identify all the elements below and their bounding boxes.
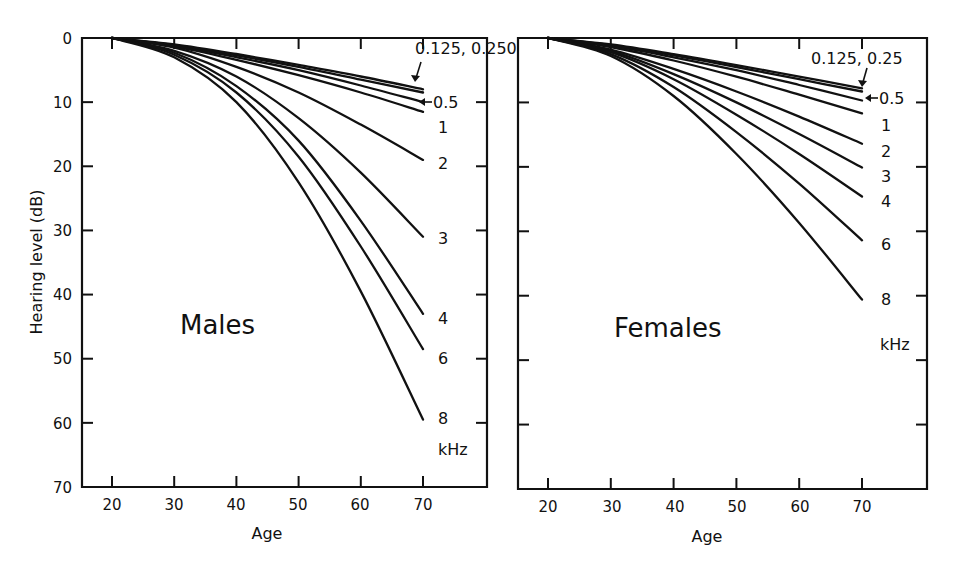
label-khz-unit: kHz — [438, 440, 468, 459]
x-tick-50: 50 — [727, 498, 746, 516]
label-3-khz: 3 — [438, 229, 448, 248]
y-tick-60: 60 — [53, 415, 72, 433]
females-x-axis-label: Age — [692, 527, 723, 546]
males-y-tick-labels: 0 10 20 30 40 50 60 70 — [53, 30, 72, 497]
x-tick-60: 60 — [350, 496, 369, 514]
males-axis-ticks — [82, 38, 487, 487]
y-tick-0: 0 — [62, 30, 72, 48]
females-curves — [548, 38, 862, 300]
arrow-icon — [863, 68, 867, 82]
label-1-khz: 1 — [881, 116, 891, 135]
label-8-khz: 8 — [881, 290, 891, 309]
label-1-khz: 1 — [438, 118, 448, 137]
x-tick-40: 40 — [665, 498, 684, 516]
males-panel-title: Males — [180, 310, 255, 340]
females-curve-labels: 0.125, 0.25 0.5 1 2 3 4 6 8 kHz — [811, 49, 910, 354]
curve-8-khz — [548, 38, 862, 300]
arrow-head-icon — [865, 94, 871, 102]
males-panel: 0 10 20 30 40 50 60 70 20 30 40 50 60 70… — [53, 30, 517, 543]
label-4-khz: 4 — [881, 192, 891, 211]
males-x-axis-label: Age — [252, 524, 283, 543]
label-05-khz: 0.5 — [879, 89, 904, 108]
females-panel: 20 30 40 50 60 70 Age Females 0.125, 0.2… — [518, 38, 927, 546]
y-axis-label: Hearing level (dB) — [27, 190, 46, 335]
y-tick-10: 10 — [53, 94, 72, 112]
x-tick-30: 30 — [164, 496, 183, 514]
label-0125-0250-khz: 0.125, 0.250 — [415, 39, 517, 58]
curve-2-khz — [112, 38, 423, 160]
label-2-khz: 2 — [881, 142, 891, 161]
y-tick-30: 30 — [53, 222, 72, 240]
x-tick-50: 50 — [288, 496, 307, 514]
label-khz-unit: kHz — [880, 335, 910, 354]
males-plot-frame — [82, 38, 487, 487]
x-tick-20: 20 — [102, 496, 121, 514]
arrow-head-icon — [411, 75, 420, 82]
arrow-head-icon — [858, 80, 867, 87]
label-6-khz: 6 — [438, 349, 448, 368]
x-tick-20: 20 — [538, 498, 557, 516]
label-2-khz: 2 — [438, 154, 448, 173]
males-x-tick-labels: 20 30 40 50 60 70 — [102, 496, 432, 514]
label-3-khz: 3 — [881, 167, 891, 186]
males-curves — [112, 38, 423, 420]
label-05-khz: 0.5 — [433, 93, 458, 112]
x-tick-70: 70 — [413, 496, 432, 514]
females-panel-title: Females — [614, 313, 722, 343]
arrow-icon — [416, 62, 421, 78]
y-tick-70: 70 — [53, 479, 72, 497]
curve-6-khz — [112, 38, 423, 349]
label-8-khz: 8 — [438, 409, 448, 428]
label-6-khz: 6 — [881, 235, 891, 254]
females-x-tick-labels: 20 30 40 50 60 70 — [538, 498, 871, 516]
y-tick-50: 50 — [53, 350, 72, 368]
x-tick-60: 60 — [790, 498, 809, 516]
label-0125-025-khz: 0.125, 0.25 — [811, 49, 903, 68]
x-tick-30: 30 — [602, 498, 621, 516]
label-4-khz: 4 — [438, 309, 448, 328]
y-tick-20: 20 — [53, 158, 72, 176]
males-curve-labels: 0.125, 0.250 0.5 1 2 3 4 6 8 kHz — [411, 39, 517, 459]
x-tick-70: 70 — [852, 498, 871, 516]
y-tick-40: 40 — [53, 286, 72, 304]
hearing-level-figure: Hearing level (dB) 0 10 20 30 40 50 60 7… — [0, 0, 957, 569]
x-tick-40: 40 — [226, 496, 245, 514]
